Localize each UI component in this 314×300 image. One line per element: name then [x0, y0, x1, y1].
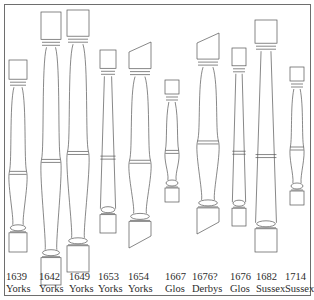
caption-place: Glos [165, 283, 186, 295]
baluster [129, 42, 151, 248]
baluster-caption: 1682Sussex [256, 271, 285, 295]
caption-place: Glos [230, 283, 251, 295]
caption-date: 1649 [69, 271, 94, 283]
caption-place: Yorks [98, 283, 123, 295]
baluster-caption: 1649Yorks [69, 271, 94, 295]
baluster [290, 67, 304, 205]
baluster-caption: 1639Yorks [6, 271, 31, 295]
baluster [100, 50, 116, 233]
caption-date: 1667 [165, 271, 186, 283]
balusters-drawing [0, 0, 314, 300]
caption-date: 1676 [230, 271, 251, 283]
baluster [41, 12, 61, 285]
caption-place: Derbys [192, 283, 222, 295]
baluster-caption: 1667Glos [165, 271, 186, 295]
caption-date: 1639 [6, 271, 31, 283]
caption-date: 1653 [98, 271, 123, 283]
caption-place: Yorks [69, 283, 94, 295]
caption-date: 1642 [39, 271, 64, 283]
baluster [165, 80, 179, 202]
caption-date: 1676? [192, 271, 222, 283]
baluster [67, 10, 89, 272]
baluster-caption: 1654Yorks [128, 271, 153, 295]
baluster-caption: 1676?Derbys [192, 271, 222, 295]
caption-place: Yorks [128, 283, 153, 295]
baluster [232, 48, 246, 226]
baluster-caption: 1653Yorks [98, 271, 123, 295]
caption-date: 1682 [256, 271, 285, 283]
baluster [9, 60, 27, 252]
caption-place: Yorks [6, 283, 31, 295]
baluster-caption: 1642Yorks [39, 271, 64, 295]
caption-place: Sussex [256, 283, 285, 295]
baluster [255, 20, 277, 252]
baluster-caption: 1714Sussex [285, 271, 314, 295]
caption-place: Yorks [39, 283, 64, 295]
caption-date: 1654 [128, 271, 153, 283]
baluster [197, 33, 219, 234]
caption-place: Sussex [285, 283, 314, 295]
baluster-caption: 1676Glos [230, 271, 251, 295]
caption-date: 1714 [285, 271, 314, 283]
